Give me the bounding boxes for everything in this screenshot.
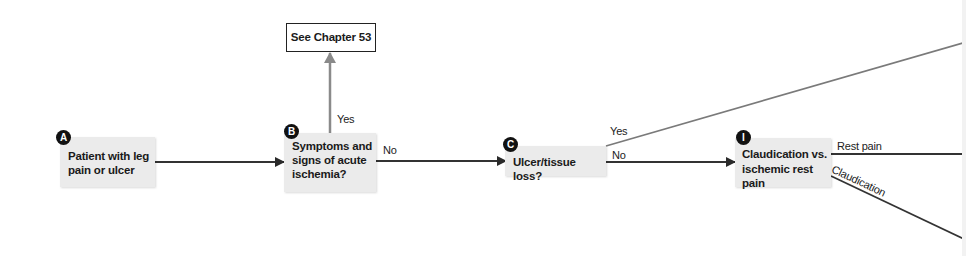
node-b-line3: ischemia? [292,167,346,181]
edge-label-rest-pain: Rest pain [837,140,882,152]
edge-label-b-no: No [383,144,397,156]
node-i-line2: ischemic rest pain [742,162,831,190]
node-b-acute-ischemia: Symptoms and signs of acute ischemia? [284,133,376,192]
badge-b: B [284,124,299,139]
badge-a: A [56,130,71,145]
node-b-line1: Symptoms and [292,139,372,153]
page-edge [962,0,966,256]
node-b-line2: signs of acute [292,153,367,167]
see-chapter-53-label: See Chapter 53 [291,31,371,43]
node-i-line1: Claudication vs. [742,147,827,161]
node-c-ulcer-tissue-loss: Ulcer/tissue loss? [505,146,606,176]
edge-label-c-no: No [612,149,626,161]
edge-label-b-yes: Yes [337,113,354,125]
badge-c: C [503,137,518,152]
edge-label-c-yes: Yes [610,125,627,137]
badge-i: I [736,130,751,145]
node-a-line1: Patient with leg [68,149,149,163]
node-a-patient-leg-pain: Patient with leg pain or ulcer [60,137,155,187]
node-a-line2: pain or ulcer [68,163,134,177]
node-i-claudication-vs-rest-pain: Claudication vs. ischemic rest pain [735,138,831,187]
node-c-line1: Ulcer/tissue loss? [513,155,606,183]
see-chapter-53-box: See Chapter 53 [286,23,376,52]
connector-lines [0,0,966,256]
